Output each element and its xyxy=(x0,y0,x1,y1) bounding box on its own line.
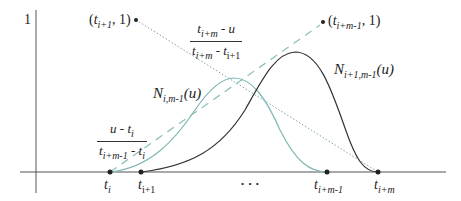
subscript: i+1 xyxy=(142,184,155,195)
subscript: i xyxy=(142,150,145,161)
subscript: i+m xyxy=(196,50,213,61)
knot-label-ti1: ti+1 xyxy=(138,178,155,195)
knot-dot-ti xyxy=(108,170,113,175)
point-right-dot xyxy=(321,20,325,24)
curve-label-n-i-plus-1: Ni+1,m-1(u) xyxy=(334,62,394,80)
falling-fraction: ti+m - u ti+m - ti+1 xyxy=(190,22,242,61)
fraction-denominator: ti+m - ti+1 xyxy=(190,42,242,61)
minus-t: - t xyxy=(212,43,226,58)
knot-label-tim1: ti+m-1 xyxy=(314,178,343,195)
ellipsis: • • • xyxy=(241,180,260,189)
fraction-denominator: ti+m-1 - ti xyxy=(97,142,147,161)
minus-u: - u xyxy=(218,21,235,36)
subscript: i+1,m-1 xyxy=(344,69,377,80)
knot-label-tim: ti+m xyxy=(374,178,395,195)
argument: (u) xyxy=(377,61,395,77)
rest: , 1) xyxy=(112,12,131,27)
point-label-left: (ti+1, 1) xyxy=(89,13,131,30)
subscript: i xyxy=(131,128,134,139)
point-left-dot xyxy=(134,18,138,22)
knot-dot-tim1 xyxy=(325,170,330,175)
fraction-numerator: ti+m - u xyxy=(190,22,242,42)
subscript: i+m xyxy=(201,28,218,39)
fraction-numerator: u - ti xyxy=(97,122,147,142)
curve-label-n-i: Ni,m-1(u) xyxy=(153,86,201,104)
knot-dot-ti1 xyxy=(139,170,144,175)
point-label-right: (ti+m-1, 1) xyxy=(328,14,380,31)
u-minus-t: u - t xyxy=(110,121,131,136)
argument: (u) xyxy=(184,85,202,101)
n-symbol: N xyxy=(153,85,163,101)
n-symbol: N xyxy=(334,61,344,77)
subscript: i+m-1 xyxy=(337,20,362,31)
rest: , 1) xyxy=(362,13,381,28)
subscript: i,m-1 xyxy=(163,93,184,104)
y-tick-label-1: 1 xyxy=(24,13,31,27)
subscript: i+1 xyxy=(227,50,240,61)
subscript: i+1 xyxy=(98,19,113,30)
subscript: i+m-1 xyxy=(318,184,343,195)
subscript: i xyxy=(108,184,111,195)
minus-t: - t xyxy=(128,143,142,158)
rising-fraction: u - ti ti+m-1 - ti xyxy=(97,122,147,161)
subscript: i+m xyxy=(378,184,395,195)
subscript: i+m-1 xyxy=(103,150,128,161)
knot-dot-tim xyxy=(376,170,381,175)
knot-label-ti: ti xyxy=(104,178,111,195)
